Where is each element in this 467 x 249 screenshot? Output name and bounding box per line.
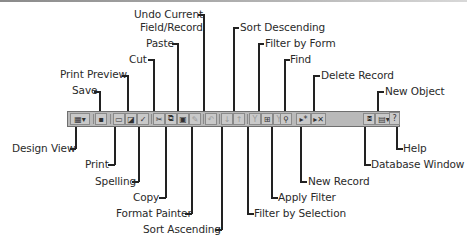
label-sort-descending: Sort Descending (240, 21, 325, 33)
leader-sort-desc-v (233, 27, 235, 111)
label-filter-by-form: Filter by Form (265, 37, 336, 49)
filter-by-form-button[interactable]: ⊞ (261, 113, 273, 125)
paste-icon: ▣ (179, 115, 187, 124)
paste-button[interactable]: ▣ (177, 113, 189, 125)
copy-button[interactable]: ⧉ (165, 113, 177, 125)
format-painter-button[interactable]: ✎ (189, 113, 201, 125)
leader-filter-selection-v (247, 127, 249, 214)
label-spelling: Spelling (95, 175, 136, 187)
leader-paste-v (177, 43, 179, 111)
sort-ascending-icon: ↓ (224, 115, 231, 124)
leader-apply-filter-h (271, 197, 278, 199)
save-button[interactable]: ▪ (95, 113, 107, 125)
leader-copy-v (165, 127, 167, 198)
find-icon: ⚲ (283, 115, 289, 124)
label-undo-current: Undo Current (134, 8, 203, 20)
label-format-painter: Format Painter (116, 207, 192, 219)
separator (219, 114, 220, 124)
spelling-icon: ✓ (140, 115, 147, 124)
label-delete-record: Delete Record (321, 69, 394, 81)
help-icon: ? (392, 114, 396, 123)
label-new-object: New Object (385, 85, 444, 97)
leader-help-v (396, 127, 398, 149)
leader-new-object-v (377, 91, 379, 111)
leader-new-record-v (300, 127, 302, 182)
separator (247, 114, 248, 124)
leader-print-preview-v (127, 75, 129, 111)
leader-spelling-v (138, 127, 140, 182)
print-preview-button[interactable]: ◪ (125, 113, 137, 125)
database-window-icon: ⧈ (367, 114, 372, 124)
find-button[interactable]: ⚲ (280, 113, 292, 125)
label-cut: Cut (129, 53, 147, 65)
sort-descending-icon: ↑ (236, 115, 243, 124)
label-apply-filter: Apply Filter (278, 191, 336, 203)
design-view-icon: ▦▾ (74, 115, 86, 124)
undo-icon: ↶ (208, 115, 215, 124)
leader-print-h (108, 164, 115, 166)
design-view-button[interactable]: ▦▾ (70, 113, 90, 125)
leader-find-v (284, 59, 286, 111)
leader-database-window-v (364, 127, 366, 165)
label-design-view: Design View (12, 142, 75, 154)
label-new-record: New Record (308, 175, 370, 187)
new-record-icon: ▸* (299, 115, 307, 124)
label-filter-by-selection: Filter by Selection (254, 207, 346, 219)
database-window-button[interactable]: ⧈ (363, 113, 375, 125)
separator (93, 114, 94, 124)
leader-undo-v (203, 14, 205, 111)
label-save: Save (72, 84, 97, 96)
label-print-preview: Print Preview (60, 68, 127, 80)
separator (110, 114, 111, 124)
leader-format-painter-v (191, 127, 193, 214)
access-database-toolbar: ▦▾ ▪ ▭ ◪ ✓ ✂ ⧉ ▣ ✎ ↶ ↓ ↑ Y ⊞ Y ⚲ ▸* ▸✕ ⧈… (67, 111, 400, 127)
new-record-button[interactable]: ▸* (296, 113, 311, 125)
label-find: Find (290, 53, 311, 65)
print-icon: ▭ (115, 115, 123, 124)
cut-icon: ✂ (156, 115, 163, 124)
leader-copy-h (159, 197, 166, 199)
filter-by-selection-button[interactable]: Y (249, 113, 261, 125)
leader-cut-v (153, 59, 155, 111)
leader-filter-selection-h (247, 213, 254, 215)
separator (151, 114, 152, 124)
sort-ascending-button[interactable]: ↓ (221, 113, 233, 125)
spelling-button[interactable]: ✓ (137, 113, 149, 125)
save-icon: ▪ (98, 115, 103, 124)
delete-record-button[interactable]: ▸✕ (311, 113, 326, 125)
label-copy: Copy (133, 191, 159, 203)
leader-print-v (114, 127, 116, 165)
label-help: Help (403, 142, 427, 154)
cut-button[interactable]: ✂ (153, 113, 165, 125)
help-button[interactable]: ? (389, 112, 400, 125)
leader-help-h (396, 148, 403, 150)
label-sort-ascending: Sort Ascending (143, 223, 221, 235)
undo-button[interactable]: ↶ (205, 113, 217, 125)
leader-apply-filter-v (271, 127, 273, 198)
leader-filter-form-v (258, 43, 260, 111)
leader-database-window-h (364, 164, 371, 166)
label-database-window: Database Window (371, 158, 464, 170)
format-painter-icon: ✎ (192, 115, 199, 124)
filter-by-selection-icon: Y (253, 115, 258, 124)
sort-descending-button[interactable]: ↑ (233, 113, 245, 125)
label-print: Print (85, 158, 109, 170)
label-field-record: Field/Record (140, 21, 203, 33)
copy-icon: ⧉ (168, 114, 174, 124)
separator (203, 114, 204, 124)
print-preview-icon: ◪ (127, 115, 135, 124)
filter-by-form-icon: ⊞ (264, 115, 271, 124)
leader-save-v (99, 91, 101, 111)
top-border-line (0, 0, 467, 2)
label-paste: Paste (146, 37, 174, 49)
leader-delete-v (313, 75, 315, 111)
delete-record-icon: ▸✕ (313, 115, 324, 124)
leader-sort-asc-v (221, 127, 223, 230)
leader-new-record-h (300, 181, 307, 183)
print-button[interactable]: ▭ (113, 113, 125, 125)
